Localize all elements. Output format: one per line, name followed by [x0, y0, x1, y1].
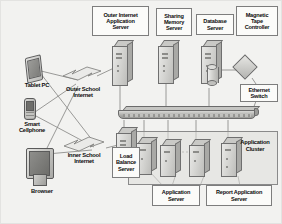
- label-ethernet-switch: Ethernet Switch: [240, 84, 278, 102]
- network-diagram-canvas: Outer Internet Application Server Sharin…: [0, 0, 282, 224]
- tablet-icon[interactable]: [26, 56, 42, 82]
- label-application-cluster: Application Cluster: [232, 137, 278, 154]
- label-smart-cellphone: Smart Cellphone: [10, 119, 54, 135]
- label-application-server: Application Server: [152, 185, 200, 206]
- label-magnetic-tape-controller: Magnetic Tape Controller: [236, 6, 278, 36]
- label-report-application-server: Report Application Server: [206, 185, 272, 206]
- label-outer-internet-application-server: Outer Internet Application Server: [92, 6, 149, 36]
- internet-cloud-icon-outer[interactable]: [60, 62, 104, 86]
- tower-server-icon-application-server-2[interactable]: [160, 139, 176, 177]
- switch-bar-icon[interactable]: [118, 106, 256, 119]
- label-outer-school-internet: Outer School Internet: [56, 84, 110, 100]
- label-load-balance-server: Load Balance Server: [112, 147, 140, 178]
- database-cylinder-icon: [207, 64, 217, 86]
- tower-server-icon-outer-internet-application-server[interactable]: [112, 40, 128, 86]
- label-tablet-pc: Tablet PC: [16, 80, 58, 90]
- tower-server-icon-sharing-memory-server[interactable]: [158, 40, 174, 84]
- tower-server-icon-application-server-3[interactable]: [189, 139, 205, 177]
- label-sharing-memory-server: Sharing Memory Server: [156, 8, 192, 36]
- label-inner-school-internet: Inner School Internet: [58, 150, 110, 166]
- label-browser: Browser: [20, 186, 64, 196]
- cellphone-icon[interactable]: [24, 98, 36, 120]
- diamond-controller-icon[interactable]: [236, 58, 254, 76]
- monitor-icon[interactable]: [26, 148, 52, 186]
- label-database-server: Database Server: [196, 14, 234, 35]
